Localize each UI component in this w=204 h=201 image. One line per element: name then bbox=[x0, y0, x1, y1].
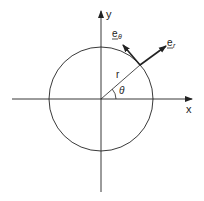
x-axis-label: x bbox=[186, 103, 192, 115]
radius-label: r bbox=[116, 69, 120, 80]
angle-arc bbox=[112, 89, 116, 99]
y-axis-label: y bbox=[106, 8, 112, 20]
e-r-vector bbox=[140, 46, 166, 65]
angle-label: θ bbox=[119, 85, 125, 96]
e-theta-vector bbox=[123, 45, 140, 65]
svg-text:r: r bbox=[173, 42, 176, 49]
e-r-label: e r bbox=[167, 37, 176, 49]
svg-text:θ: θ bbox=[118, 33, 122, 40]
e-theta-label: e θ bbox=[112, 28, 122, 40]
polar-diagram: y x r θ e θ e r bbox=[0, 0, 204, 201]
